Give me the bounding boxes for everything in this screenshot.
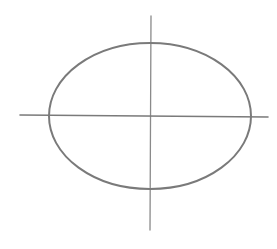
ellipse-diagram bbox=[0, 0, 277, 249]
horizontal-axis bbox=[20, 115, 268, 117]
vertical-axis bbox=[150, 16, 151, 230]
